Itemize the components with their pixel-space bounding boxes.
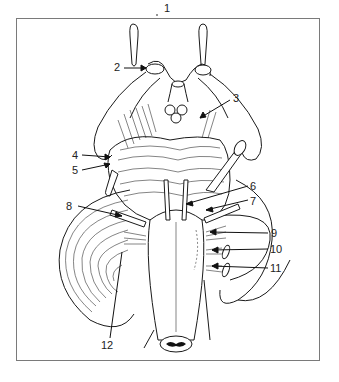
label-11: 11	[270, 263, 281, 274]
label-7: 7	[250, 196, 256, 207]
label-1: 1	[164, 3, 170, 14]
label-10: 10	[270, 244, 282, 255]
label-2: 2	[114, 62, 120, 73]
label-5: 5	[72, 165, 78, 176]
label-8: 8	[66, 201, 72, 212]
label-9: 9	[271, 228, 277, 239]
brainstem-drawing	[0, 0, 339, 382]
label-6: 6	[250, 181, 256, 192]
label-4: 4	[72, 150, 78, 161]
label-3: 3	[233, 93, 239, 104]
label-12: 12	[101, 340, 113, 351]
